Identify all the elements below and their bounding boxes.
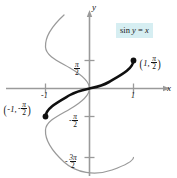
- upper-close-paren: ): [158, 57, 161, 70]
- upper-open-paren: (: [140, 57, 143, 70]
- y-axis-label: y: [92, 3, 96, 12]
- x-tick-label-1: 1: [131, 92, 135, 100]
- x-axis-label: x: [167, 84, 171, 93]
- point-label-upper: ( 1 , π 2 ): [139, 55, 161, 71]
- point-dot-upper: [131, 58, 137, 64]
- math-figure: sin y = x x y -1 1 π 2 - π 2 - 3π: [0, 0, 177, 178]
- y-tick-label-pi-over-2: π 2: [74, 54, 80, 77]
- y-tick-label-neg-pi-over-2: - π 2: [69, 110, 78, 129]
- y-tick-neg-3pi-numerator: 3π: [68, 154, 78, 162]
- equation-label: sin y = x: [116, 23, 153, 38]
- lower-x-value: -1: [7, 104, 14, 114]
- equation-function-name: sin: [120, 25, 130, 35]
- y-tick-neg-pi-numerator: π: [72, 113, 78, 121]
- lower-comma: ,: [14, 104, 16, 114]
- lower-y-numerator: π: [21, 101, 27, 109]
- equation-variable-x: x: [145, 25, 149, 35]
- lower-open-paren: (: [4, 103, 7, 116]
- upper-y-denominator: 2: [151, 62, 157, 71]
- point-dot-lower: [43, 114, 49, 120]
- y-tick-label-neg-3pi-over-2: - 3π 2: [65, 151, 78, 170]
- y-tick-neg-pi-denominator: 2: [72, 120, 78, 129]
- y-tick-pi-numerator: π: [74, 61, 80, 69]
- y-tick-neg-3pi-denominator: 2: [70, 161, 76, 170]
- y-tick-pi-denominator: 2: [74, 68, 80, 77]
- x-tick-label-minus1: -1: [41, 92, 48, 100]
- upper-comma: ,: [148, 58, 150, 68]
- point-label-lower: ( -1 , - π 2 ): [3, 101, 31, 117]
- upper-y-numerator: π: [151, 55, 157, 63]
- lower-y-denominator: 2: [21, 108, 27, 117]
- lower-close-paren: ): [28, 103, 31, 116]
